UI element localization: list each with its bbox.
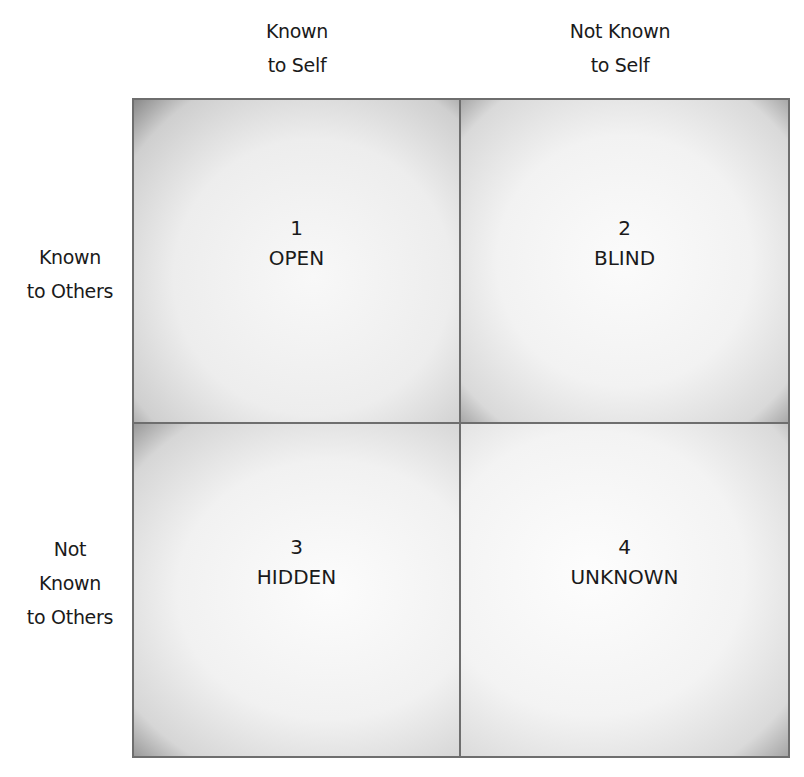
row-header-line: Known: [14, 240, 126, 274]
quadrant-label: 4 UNKNOWN: [461, 532, 788, 592]
quadrant-number: 3: [134, 532, 459, 562]
quadrant-title: HIDDEN: [134, 562, 459, 592]
row-header-line: to Others: [14, 274, 126, 308]
quadrant-label: 3 HIDDEN: [134, 532, 459, 592]
quadrant-open: 1 OPEN: [132, 98, 461, 424]
row-header-not-known-to-others: Not Known to Others: [14, 532, 126, 634]
row-header-line: Known: [14, 566, 126, 600]
column-header-not-known-to-self: Not Known to Self: [545, 14, 695, 82]
quadrant-number: 4: [461, 532, 788, 562]
column-header-known-to-self: Known to Self: [232, 14, 362, 82]
quadrant-title: UNKNOWN: [461, 562, 788, 592]
column-header-line: to Self: [232, 48, 362, 82]
row-header-line: Not: [14, 532, 126, 566]
quadrant-blind: 2 BLIND: [459, 98, 790, 424]
quadrant-title: OPEN: [134, 243, 459, 273]
row-header-line: to Others: [14, 600, 126, 634]
quadrant-label: 1 OPEN: [134, 213, 459, 273]
quadrant-hidden: 3 HIDDEN: [132, 422, 461, 758]
quadrant-title: BLIND: [461, 243, 788, 273]
quadrant-unknown: 4 UNKNOWN: [459, 422, 790, 758]
johari-window-grid: 1 OPEN 2 BLIND 3 HIDDEN 4 UNKNOWN: [132, 98, 790, 758]
column-header-line: Known: [232, 14, 362, 48]
row-header-known-to-others: Known to Others: [14, 240, 126, 308]
column-header-line: Not Known: [545, 14, 695, 48]
quadrant-label: 2 BLIND: [461, 213, 788, 273]
quadrant-number: 1: [134, 213, 459, 243]
column-header-line: to Self: [545, 48, 695, 82]
quadrant-number: 2: [461, 213, 788, 243]
